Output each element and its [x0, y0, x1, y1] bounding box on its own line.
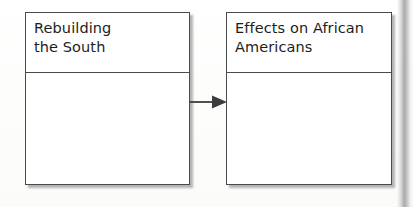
diagram-node-effects-on-african-americans[interactable]: Effects on African Americans [226, 12, 392, 185]
node-body-blank-area[interactable] [227, 73, 391, 183]
node-body-blank-area[interactable] [26, 73, 189, 183]
node-header: Effects on African Americans [227, 13, 391, 73]
arrow-right-icon [190, 92, 228, 112]
diagram-node-rebuilding-the-south[interactable]: Rebuilding the South [25, 12, 190, 185]
node-title: Effects on African Americans [235, 19, 391, 57]
node-title: Rebuilding the South [34, 19, 189, 57]
diagram-canvas: Rebuilding the South Effects on African … [0, 0, 413, 207]
scanned-page-edge [397, 0, 413, 207]
node-header: Rebuilding the South [26, 13, 189, 73]
